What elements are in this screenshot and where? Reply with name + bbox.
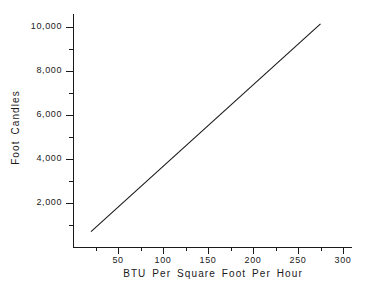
x-axis-ticks: [97, 247, 344, 254]
y-tick-label: 6,000: [36, 110, 62, 119]
x-tick-label: 150: [188, 256, 228, 265]
x-tick-label: 300: [323, 256, 363, 265]
y-axis-title: Foot Candles: [10, 80, 21, 176]
axis-lines: [73, 14, 352, 247]
y-axis-ticks: [66, 28, 73, 226]
y-tick-label: 8,000: [36, 66, 62, 75]
x-axis-title: BTU Per Square Foot Per Hour: [73, 268, 353, 279]
data-line: [91, 24, 321, 232]
x-tick-label: 100: [143, 256, 183, 265]
x-tick-label: 200: [233, 256, 273, 265]
y-tick-label: 4,000: [36, 154, 62, 163]
y-tick-label: 2,000: [36, 198, 62, 207]
plot-area: [0, 0, 368, 294]
data-series-group: [91, 24, 321, 232]
x-tick-label: 250: [278, 256, 318, 265]
x-tick-label: 50: [98, 256, 138, 265]
chart-figure: 2,0004,0006,0008,00010,000 5010015020025…: [0, 0, 368, 294]
y-tick-label: 10,000: [31, 22, 62, 31]
